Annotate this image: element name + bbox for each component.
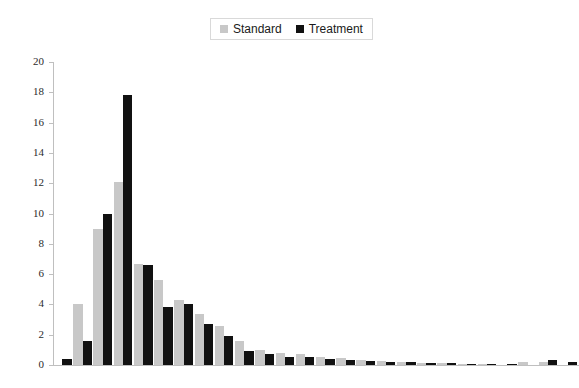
bar-chart: Standard Treatment 02468101214161820: [0, 0, 579, 388]
bar-treatment: [406, 362, 415, 365]
bar-treatment: [305, 357, 314, 365]
bar-group: [255, 62, 275, 365]
bar-treatment: [467, 364, 476, 366]
bar-treatment: [568, 362, 577, 365]
bar-standard: [93, 229, 102, 365]
bar-standard: [154, 280, 163, 365]
chart-legend: Standard Treatment: [210, 18, 373, 40]
bar-group: [316, 62, 336, 365]
y-axis-label: 2: [14, 329, 44, 340]
bar-group: [276, 62, 296, 365]
standard-swatch: [220, 25, 228, 33]
bar-treatment: [366, 361, 375, 365]
bar-standard: [316, 357, 325, 365]
plot-area: [53, 62, 579, 365]
bar-group: [195, 62, 215, 365]
bar-treatment: [204, 324, 213, 365]
y-axis-tick: [49, 335, 54, 336]
bar-treatment: [507, 364, 516, 365]
y-axis-label: 6: [14, 268, 44, 279]
y-axis-tick: [49, 365, 54, 366]
bar-group: [397, 62, 417, 365]
bar-group: [417, 62, 437, 365]
y-axis-label: 0: [14, 359, 44, 370]
bar-standard: [397, 362, 406, 365]
bar-group: [215, 62, 235, 365]
y-axis-tick: [49, 304, 54, 305]
legend-label-standard: Standard: [233, 23, 282, 35]
y-axis-tick: [49, 123, 54, 124]
x-axis-line: [53, 365, 579, 366]
bar-group: [53, 62, 73, 365]
bar-standard: [377, 361, 386, 365]
bar-group: [336, 62, 356, 365]
bar-group: [174, 62, 194, 365]
bar-treatment: [224, 336, 233, 365]
bar-treatment: [163, 307, 172, 365]
bar-standard: [356, 360, 365, 365]
bar-group: [458, 62, 478, 365]
y-axis-label: 14: [14, 147, 44, 158]
legend-entry-treatment: Treatment: [296, 23, 363, 35]
y-axis-label: 18: [14, 86, 44, 97]
bar-treatment: [386, 362, 395, 365]
bar-treatment: [447, 363, 456, 365]
bar-standard: [276, 353, 285, 365]
bar-group: [559, 62, 579, 365]
bar-treatment: [325, 359, 334, 365]
y-axis-label: 10: [14, 208, 44, 219]
bar-group: [478, 62, 498, 365]
bar-standard: [478, 364, 487, 365]
bar-group: [296, 62, 316, 365]
bar-standard: [539, 362, 548, 365]
bar-treatment: [184, 304, 193, 365]
bar-treatment: [548, 360, 557, 365]
bar-group: [93, 62, 113, 365]
bar-treatment: [62, 359, 71, 365]
bar-standard: [437, 363, 446, 365]
bar-group: [539, 62, 559, 365]
bar-treatment: [103, 214, 112, 366]
bar-standard: [336, 358, 345, 365]
bar-group: [518, 62, 538, 365]
y-axis-label: 20: [14, 56, 44, 67]
y-axis-label: 12: [14, 177, 44, 188]
bar-standard: [518, 362, 527, 365]
legend-label-treatment: Treatment: [309, 23, 363, 35]
bar-treatment: [487, 364, 496, 365]
y-axis-tick: [49, 274, 54, 275]
bar-standard: [134, 264, 143, 366]
bar-standard: [114, 182, 123, 365]
bar-standard: [235, 341, 244, 365]
bar-treatment: [123, 95, 132, 365]
y-axis-tick: [49, 62, 54, 63]
bar-group: [377, 62, 397, 365]
y-axis-label: 8: [14, 238, 44, 249]
bar-group: [154, 62, 174, 365]
bar-standard: [73, 304, 82, 365]
treatment-swatch: [296, 25, 304, 33]
bar-standard: [296, 354, 305, 365]
bar-group: [437, 62, 457, 365]
bar-group: [114, 62, 134, 365]
bar-standard: [195, 314, 204, 366]
bar-standard: [255, 350, 264, 365]
bar-treatment: [143, 265, 152, 365]
bar-treatment: [265, 354, 274, 365]
y-axis-label: 16: [14, 117, 44, 128]
y-axis-tick: [49, 153, 54, 154]
bar-treatment: [285, 357, 294, 365]
y-axis-tick: [49, 183, 54, 184]
bar-treatment: [426, 363, 435, 365]
bar-group: [73, 62, 93, 365]
bar-standard: [417, 363, 426, 365]
bar-treatment: [83, 341, 92, 365]
bar-standard: [458, 364, 467, 366]
bar-standard: [215, 326, 224, 365]
bar-treatment: [244, 351, 253, 365]
bar-group: [235, 62, 255, 365]
legend-entry-standard: Standard: [220, 23, 282, 35]
y-axis-label: 4: [14, 298, 44, 309]
bar-group: [134, 62, 154, 365]
y-axis-tick: [49, 214, 54, 215]
